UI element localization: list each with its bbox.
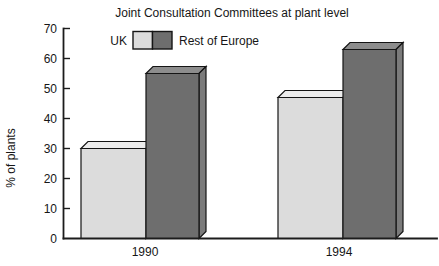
bar-chart: Joint Consultation Committees at plant l…: [0, 0, 439, 266]
bar-uk-1994-top: [278, 91, 350, 98]
chart-title: Joint Consultation Committees at plant l…: [115, 6, 348, 20]
y-tick-label-60: 60: [44, 52, 58, 66]
y-tick-marks: [64, 29, 70, 209]
legend-swatch-rest-of-europe-icon: [153, 32, 173, 50]
bar-roe-1990-top: [146, 67, 206, 74]
legend: UK Rest of Europe: [110, 32, 259, 50]
y-tick-label-0: 0: [50, 232, 57, 246]
x-category-labels: 1990 1994: [132, 245, 353, 259]
y-tick-labels: 0 10 20 30 40 50 60 70: [44, 22, 58, 246]
y-tick-label-20: 20: [44, 172, 58, 186]
y-tick-label-70: 70: [44, 22, 58, 36]
legend-swatch-uk-icon: [133, 32, 153, 50]
bar-roe-1990-side: [199, 67, 206, 239]
bar-uk-1994-front: [278, 98, 343, 239]
chart-canvas: Joint Consultation Committees at plant l…: [0, 0, 439, 266]
bars-group: [81, 43, 403, 239]
legend-label-uk: UK: [110, 34, 127, 48]
bar-uk-1990-front: [81, 149, 146, 239]
y-tick-label-50: 50: [44, 82, 58, 96]
y-axis-title: % of plants: [4, 128, 18, 187]
legend-label-rest-of-europe: Rest of Europe: [179, 34, 259, 48]
bar-roe-1994-top: [343, 43, 403, 50]
bar-roe-1990-front: [146, 74, 199, 239]
bar-uk-1990-top: [81, 142, 153, 149]
x-category-label-1990: 1990: [132, 245, 159, 259]
x-category-label-1994: 1994: [326, 245, 353, 259]
y-tick-label-40: 40: [44, 112, 58, 126]
y-tick-label-30: 30: [44, 142, 58, 156]
bar-roe-1994-front: [343, 50, 396, 239]
y-tick-label-10: 10: [44, 202, 58, 216]
bar-roe-1994-side: [396, 43, 403, 239]
